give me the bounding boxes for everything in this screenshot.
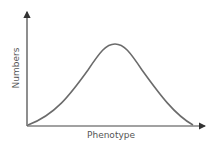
- distribution-curve: [28, 44, 193, 125]
- y-axis-label: Numbers: [11, 47, 21, 88]
- x-axis-label: Phenotype: [87, 130, 135, 140]
- bell-curve-chart: Phenotype Numbers: [0, 0, 215, 148]
